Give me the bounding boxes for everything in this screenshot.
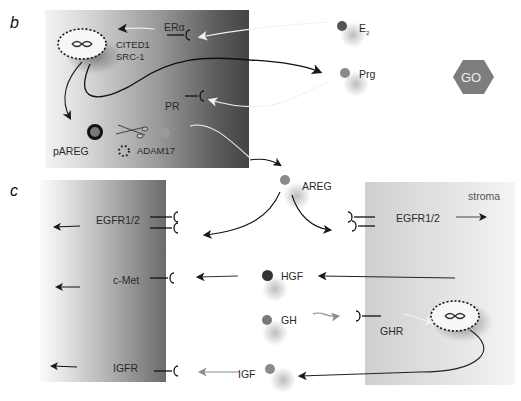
areg-label: AREG (302, 180, 332, 192)
e2-subscript: 2 (366, 30, 369, 36)
gh-label: GH (281, 314, 297, 326)
stroma-label: stroma (468, 190, 500, 202)
adam17-label: ADAM17 (137, 145, 175, 156)
e2-main-text: E (359, 22, 366, 34)
egfr-left-receptor-icon (150, 212, 178, 233)
diagram-graphics (0, 0, 521, 401)
prg-label: Prg (359, 68, 375, 80)
cited1-label: CITED1 (116, 39, 150, 50)
ghr-receptor-icon (356, 311, 381, 321)
cmet-label: c-Met (113, 274, 139, 286)
e2-label: E2 (359, 22, 369, 36)
igfr-label: IGFR (113, 362, 138, 374)
scissors-icon (116, 125, 148, 138)
go-label: GO (461, 70, 481, 85)
src1-label: SRC-1 (116, 51, 145, 62)
egfr-left-label: EGFR1/2 (96, 214, 140, 226)
cmet-receptor-icon (150, 273, 174, 283)
adam17-icon (119, 146, 129, 156)
igf-label: IGF (238, 368, 256, 380)
egfr-right-label: EGFR1/2 (396, 212, 440, 224)
pareg-label: pAREG (53, 145, 89, 157)
ghr-label: GHR (380, 325, 403, 337)
egfr-right-receptor-icon (348, 212, 375, 231)
hgf-label: HGF (281, 270, 303, 282)
igfr-receptor-icon (154, 366, 178, 376)
er-alpha-label: ERα (164, 21, 185, 33)
pr-label: PR (165, 100, 180, 112)
pr-receptor-icon (185, 91, 204, 101)
